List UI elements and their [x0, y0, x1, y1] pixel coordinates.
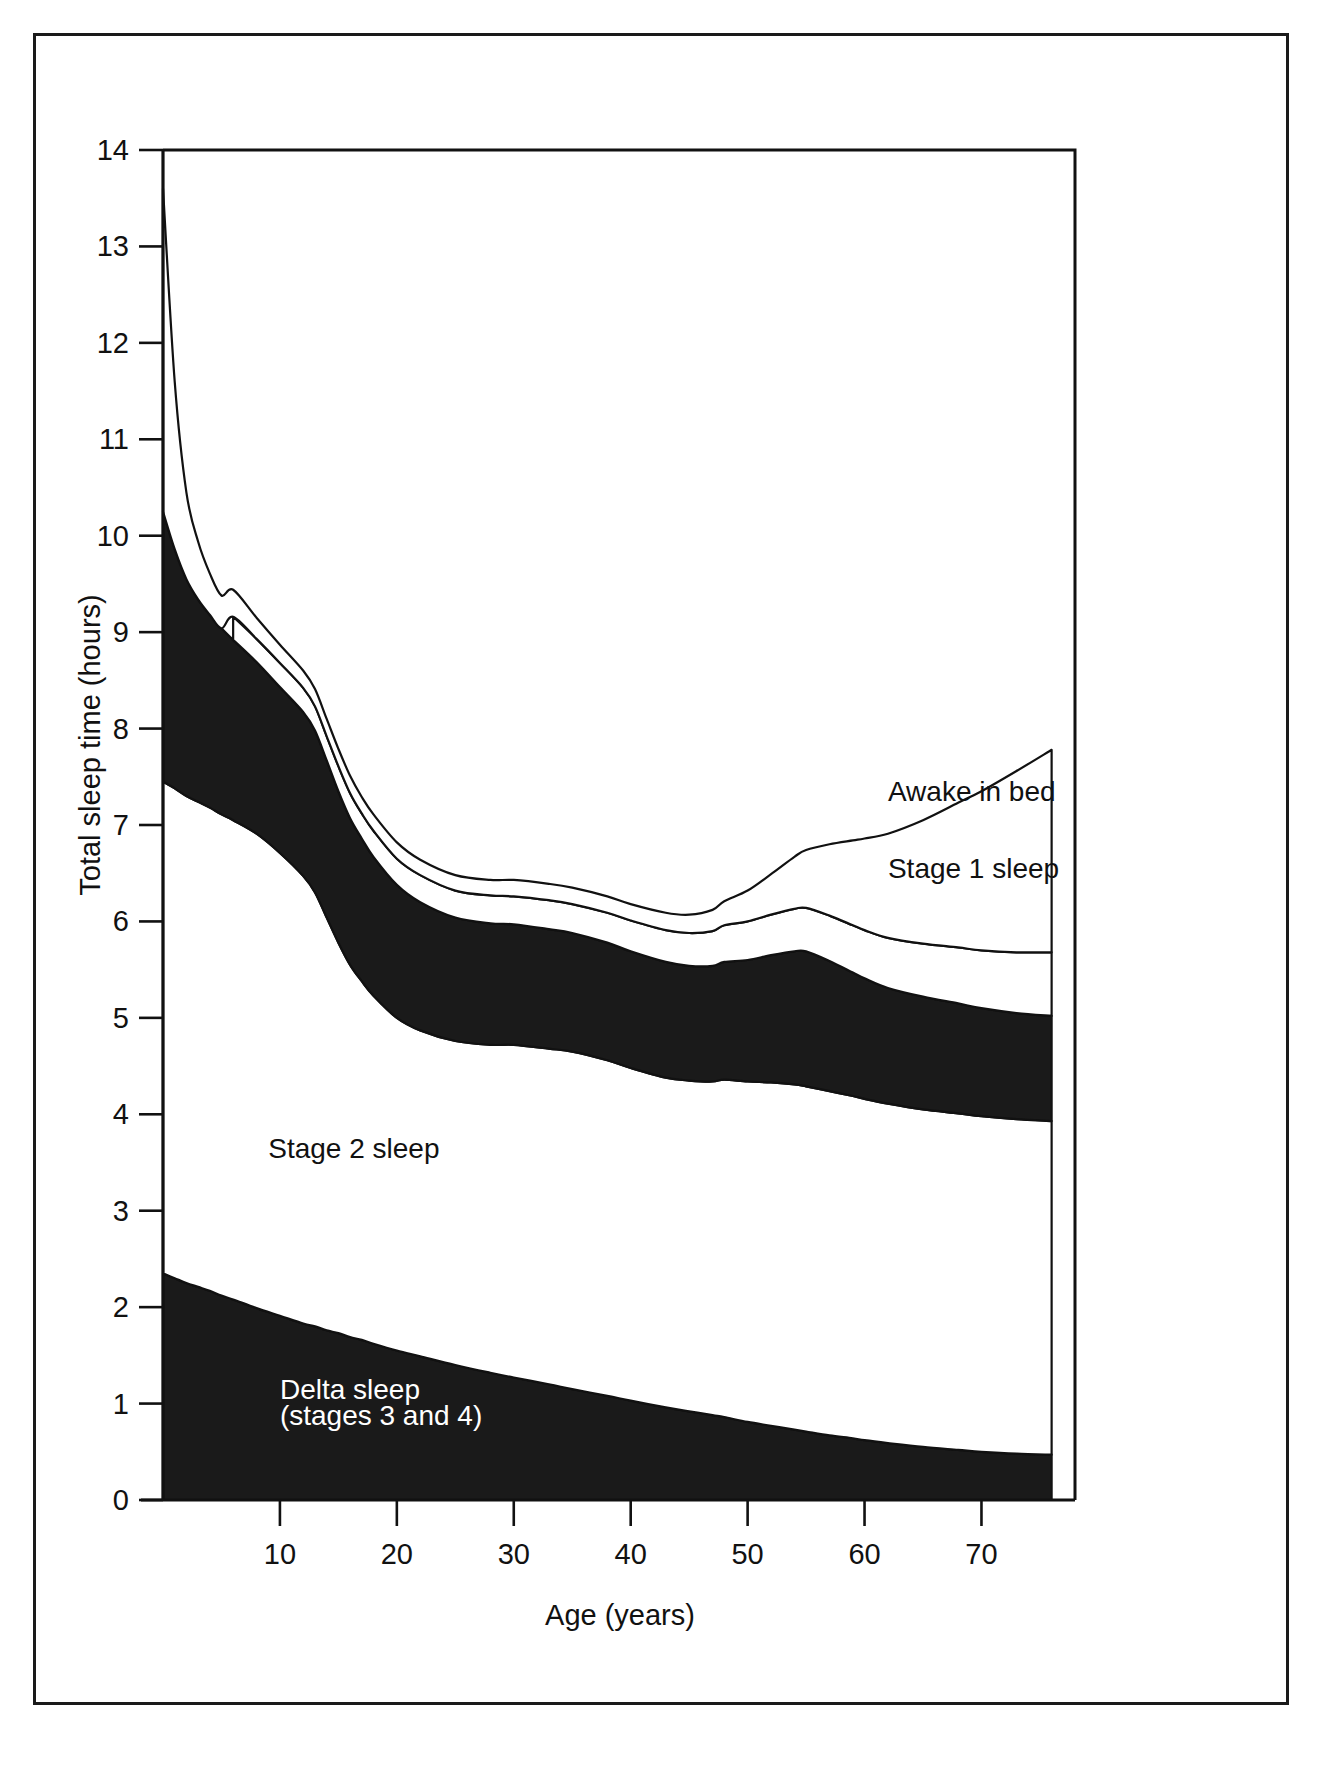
x-tick-label-60: 60	[848, 1538, 880, 1570]
x-tick-label-70: 70	[965, 1538, 997, 1570]
y-tick-label-9: 9	[113, 616, 129, 648]
y-tick-label-0: 0	[113, 1484, 129, 1516]
x-tick-label-10: 10	[264, 1538, 296, 1570]
y-tick-label-8: 8	[113, 713, 129, 745]
y-tick-label-6: 6	[113, 905, 129, 937]
x-tick-label-30: 30	[498, 1538, 530, 1570]
y-tick-label-12: 12	[97, 327, 129, 359]
y-tick-label-10: 10	[97, 520, 129, 552]
y-tick-label-7: 7	[113, 809, 129, 841]
y-tick-label-13: 13	[97, 230, 129, 262]
y-axis-title: Total sleep time (hours)	[74, 594, 106, 895]
y-tick-label-3: 3	[113, 1195, 129, 1227]
y-tick-label-11: 11	[99, 423, 129, 455]
annotation-stage-2-sleep: Stage 2 sleep	[268, 1133, 439, 1164]
x-axis-title: Age (years)	[545, 1599, 695, 1631]
y-tick-label-2: 2	[113, 1291, 129, 1323]
x-tick-label-20: 20	[381, 1538, 413, 1570]
sleep-stages-area-chart: 0123456789101112131410203040506070 Awake…	[0, 0, 1324, 1775]
annotation-rem-sleep: REM sleep	[888, 959, 1025, 990]
y-tick-label-5: 5	[113, 1002, 129, 1034]
chart-svg: 0123456789101112131410203040506070 Awake…	[0, 0, 1324, 1775]
annotation-stages-3-and-4: (stages 3 and 4)	[280, 1400, 482, 1431]
annotation-awake-in-bed: Awake in bed	[888, 776, 1056, 807]
x-tick-label-50: 50	[731, 1538, 763, 1570]
x-tick-label-40: 40	[615, 1538, 647, 1570]
y-tick-label-4: 4	[113, 1098, 129, 1130]
annotation-stage-1-sleep: Stage 1 sleep	[888, 853, 1059, 884]
figure-container: 0123456789101112131410203040506070 Awake…	[0, 0, 1324, 1775]
y-tick-label-14: 14	[97, 134, 129, 166]
y-tick-label-1: 1	[113, 1388, 129, 1420]
stacked-area-bands	[163, 189, 1052, 1500]
